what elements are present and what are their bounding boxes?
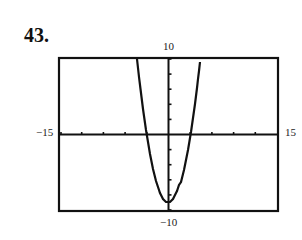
graph-window <box>0 0 302 240</box>
axes <box>60 59 277 210</box>
